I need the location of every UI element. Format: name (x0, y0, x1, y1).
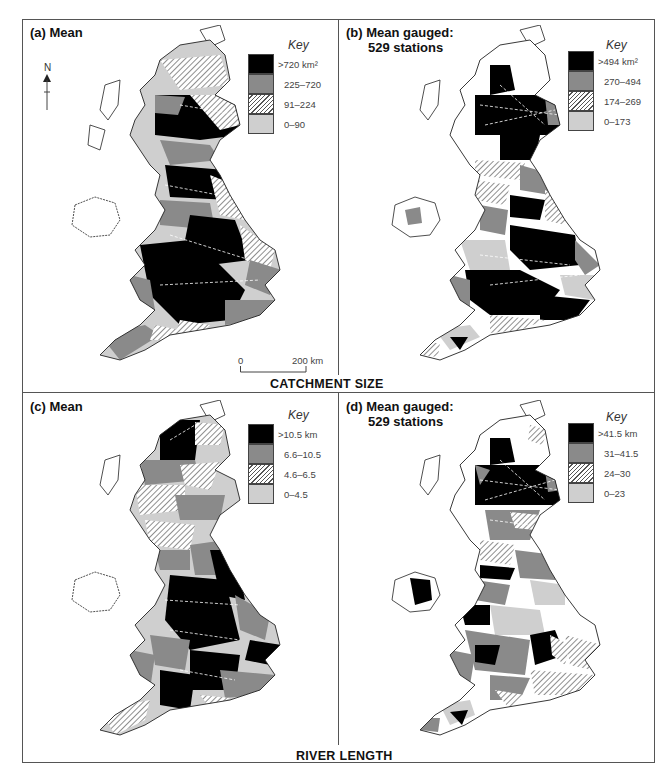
key-swatch-light (568, 483, 594, 503)
key-label: 6.6–10.5 (284, 449, 321, 460)
key-label: 0–173 (604, 116, 630, 127)
key-swatch-black (248, 54, 274, 74)
key-swatch-hatch (568, 463, 594, 483)
section-title-catchment-size: CATCHMENT SIZE (270, 377, 384, 391)
key-swatch-grey (568, 71, 594, 91)
key-swatch-grey (248, 74, 274, 94)
panel-divider-top (338, 19, 339, 375)
key-swatch-grey (248, 444, 274, 464)
north-arrow-icon (42, 74, 52, 110)
key-swatch-hatch (248, 464, 274, 484)
key-label: 4.6–6.5 (284, 469, 316, 480)
key-label: 225–720 (284, 79, 321, 90)
key-label: 0–90 (284, 119, 305, 130)
key-swatch-light (248, 114, 274, 134)
key-title: Key (606, 38, 627, 52)
key-swatch-light (568, 111, 594, 131)
key-label: 174–269 (604, 96, 641, 107)
section-title-river-length: RIVER LENGTH (296, 749, 393, 763)
key-swatch-hatch (568, 91, 594, 111)
key-label: 24–30 (604, 468, 630, 479)
scale-bar (240, 366, 310, 374)
key-swatch-grey (568, 443, 594, 463)
scale-bar-start: 0 (238, 355, 243, 366)
key-label: 31–41.5 (604, 448, 638, 459)
key-swatch-hatch (248, 94, 274, 114)
key-title: Key (606, 410, 627, 424)
key-label: >720 km² (278, 59, 318, 70)
key-title: Key (288, 38, 309, 52)
key-swatch-black (248, 424, 274, 444)
key-swatch-black (568, 51, 594, 71)
key-title: Key (288, 408, 309, 422)
scale-bar-end: 200 km (292, 355, 323, 366)
key-label: >41.5 km (598, 428, 637, 439)
key-label: 91–224 (284, 99, 316, 110)
key-label: 270–494 (604, 76, 641, 87)
key-label: 0–4.5 (284, 489, 308, 500)
north-label: N (44, 62, 51, 73)
key-label: >10.5 km (278, 429, 317, 440)
panel-divider-bottom (338, 393, 339, 745)
key-label: 0–23 (604, 488, 625, 499)
key-swatch-black (568, 423, 594, 443)
key-label: >494 km² (598, 56, 638, 67)
key-swatch-light (248, 484, 274, 504)
